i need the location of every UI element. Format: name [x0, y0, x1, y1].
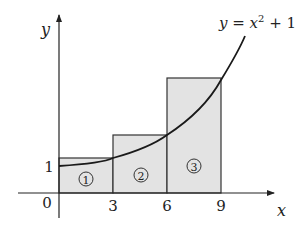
rectangle-2	[113, 135, 167, 193]
equation-suffix: + 1	[264, 14, 296, 32]
rect-label-3: 3	[191, 161, 198, 174]
origin-label: 0	[42, 194, 52, 212]
x-axis-label: x	[277, 201, 286, 220]
y-tick-1-label: 1	[44, 158, 54, 176]
y-axis-label: y	[40, 20, 51, 39]
equation-label: y = x2 + 1	[218, 13, 296, 32]
x-tick-3-label: 3	[108, 197, 118, 215]
equation-prefix: y = x	[218, 14, 259, 32]
x-tick-6-label: 6	[162, 197, 172, 215]
rectangle-3	[167, 78, 221, 193]
rect-label-2: 2	[138, 170, 145, 183]
rect-label-1: 1	[83, 174, 90, 187]
x-tick-9-label: 9	[216, 197, 226, 215]
riemann-sum-diagram: 1 2 3 y x 0 1 3 6 9 y = x2 + 1	[0, 0, 303, 228]
